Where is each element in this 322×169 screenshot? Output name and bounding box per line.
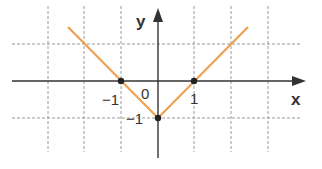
x-axis-label: x: [291, 91, 300, 108]
point-1-0: [191, 78, 197, 84]
graph-canvas: [0, 0, 322, 169]
y-axis-arrow-icon: [153, 8, 163, 22]
origin-label: 0: [141, 86, 149, 101]
y-axis-label: y: [136, 13, 145, 30]
grid: [12, 6, 302, 152]
axes: [12, 18, 296, 158]
tick-label-x-neg1: −1: [102, 92, 119, 107]
point-0-neg1: [155, 115, 161, 121]
point-neg1-0: [118, 78, 124, 84]
x-axis-arrow-icon: [292, 76, 306, 86]
tick-label-y-neg1: −1: [126, 111, 143, 126]
tick-label-x-1: 1: [190, 91, 198, 106]
